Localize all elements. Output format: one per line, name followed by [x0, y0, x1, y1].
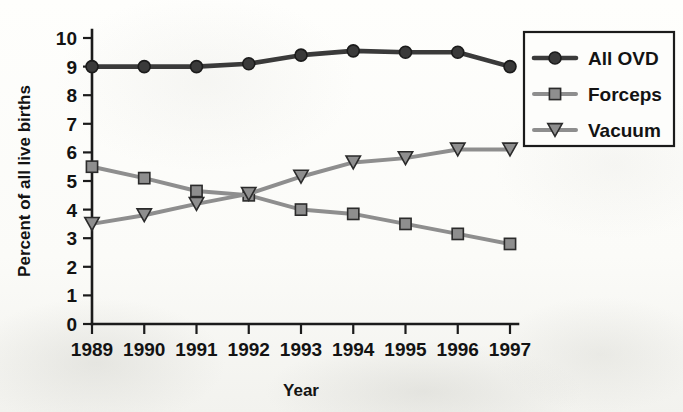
y-tick-label-9: 9: [66, 57, 77, 78]
series-vacuum: [85, 143, 517, 230]
line-chart: 0123456789101989199019911992199319941995…: [0, 0, 683, 412]
data-point-1996-marker: [452, 46, 464, 58]
legend-swatch-marker: [549, 88, 560, 99]
data-point-1989-marker: [86, 161, 97, 172]
y-tick-label-7: 7: [66, 114, 77, 135]
x-tick-label-1993: 1993: [280, 339, 322, 360]
data-point-1993-marker: [295, 49, 307, 61]
x-tick-label-1989: 1989: [71, 339, 113, 360]
legend-label: Vacuum: [588, 120, 661, 141]
data-point-1994-marker: [348, 208, 359, 219]
data-point-1995-marker: [400, 46, 412, 58]
data-point-1994-marker: [347, 45, 359, 57]
data-point-1990-marker: [139, 173, 150, 184]
data-point-1991-marker: [191, 185, 202, 196]
y-tick-label-10: 10: [56, 28, 77, 49]
y-tick-label-1: 1: [66, 285, 77, 306]
data-point-1995-marker: [400, 218, 411, 229]
data-point-1989-marker: [86, 61, 98, 73]
data-point-1996-marker: [452, 228, 463, 239]
y-tick-label-0: 0: [66, 314, 77, 335]
legend-label: All OVD: [588, 48, 659, 69]
x-tick-label-1994: 1994: [332, 339, 375, 360]
legend-swatch-marker: [549, 52, 561, 64]
x-tick-label-1995: 1995: [384, 339, 427, 360]
data-point-1997-marker: [504, 238, 515, 249]
y-tick-label-4: 4: [66, 200, 77, 221]
data-point-1992-marker: [243, 58, 255, 70]
series-all-ovd: [86, 45, 516, 73]
data-point-1993-marker: [295, 204, 306, 215]
x-tick-label-1997: 1997: [489, 339, 531, 360]
y-tick-label-2: 2: [66, 257, 77, 278]
x-axis-title: Year: [283, 381, 319, 400]
legend-label: Forceps: [588, 84, 662, 105]
y-tick-label-8: 8: [66, 85, 77, 106]
y-tick-label-5: 5: [66, 171, 77, 192]
data-point-1990-marker: [138, 61, 150, 73]
data-point-1997-marker: [504, 61, 516, 73]
y-tick-label-3: 3: [66, 228, 77, 249]
x-tick-label-1996: 1996: [437, 339, 479, 360]
y-axis-title: Percent of all live births: [15, 85, 34, 277]
x-tick-label-1992: 1992: [228, 339, 270, 360]
data-point-1991-marker: [191, 61, 203, 73]
y-tick-label-6: 6: [66, 142, 77, 163]
x-tick-label-1991: 1991: [175, 339, 218, 360]
legend: All OVDForcepsVacuum: [524, 32, 674, 146]
x-tick-label-1990: 1990: [123, 339, 165, 360]
chart-figure: 0123456789101989199019911992199319941995…: [0, 0, 683, 412]
